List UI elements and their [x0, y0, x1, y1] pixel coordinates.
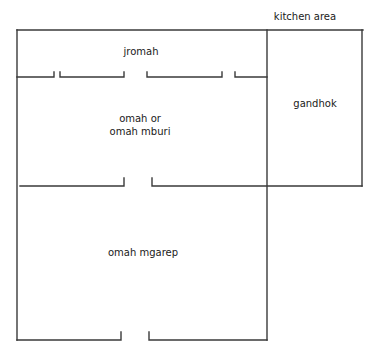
middle-partition — [20, 178, 362, 186]
omah-mburi-label-line2: omah mburi — [110, 125, 171, 138]
omah-mgarep-label: omah mgarep — [108, 246, 178, 259]
floor-plan — [0, 0, 381, 357]
gandhok-label: gandhok — [293, 97, 336, 110]
omah-mburi-label-line1: omah or — [119, 112, 161, 125]
front-wall — [17, 332, 267, 340]
jromah-label: jromah — [124, 45, 159, 58]
jromah-partition — [17, 72, 267, 77]
kitchen-area-label: kitchen area — [274, 10, 336, 23]
